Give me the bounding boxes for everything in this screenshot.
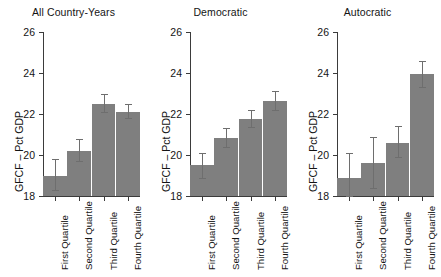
error-bar-cap-lower	[419, 87, 426, 88]
x-axis-tick-label: First Quartile	[59, 215, 70, 270]
error-bar-cap-lower	[125, 118, 132, 119]
error-bar-cap-lower	[248, 127, 255, 128]
error-bar-cap-upper	[223, 128, 230, 129]
panel-title: All Country-Years	[0, 6, 147, 18]
x-axis-tick-label: Second Quartile	[83, 201, 94, 270]
error-bar-cap-lower	[223, 147, 230, 148]
y-axis-tick	[39, 32, 43, 33]
x-axis-tick-label: Fourth Quartile	[132, 206, 143, 270]
x-axis-tick-label: Second Quartile	[377, 201, 388, 270]
error-bar-cap-upper	[272, 91, 279, 92]
y-axis-tick-label: 24	[9, 67, 35, 79]
y-axis-tick-label: 26	[156, 26, 182, 38]
x-axis-line	[190, 196, 287, 197]
x-axis-tick-label: Third Quartile	[108, 212, 119, 270]
y-axis-tick	[333, 73, 337, 74]
error-bar-cap-upper	[395, 126, 402, 127]
error-bar	[422, 61, 423, 88]
x-axis-tick-label: Fourth Quartile	[426, 206, 437, 270]
error-bar-cap-upper	[248, 110, 255, 111]
error-bar	[349, 153, 350, 196]
y-axis-tick-label: 22	[156, 108, 182, 120]
y-axis-tick	[39, 114, 43, 115]
x-axis-tick	[275, 197, 276, 201]
bar	[410, 74, 434, 196]
panel-title: Democratic	[147, 6, 294, 18]
error-bar	[226, 128, 227, 146]
x-axis-tick	[202, 197, 203, 201]
x-axis-tick	[226, 197, 227, 201]
panel-title: Autocratic	[294, 6, 441, 18]
bar	[116, 112, 140, 196]
x-axis-tick	[79, 197, 80, 201]
error-bar-cap-lower	[370, 188, 377, 189]
bar	[263, 101, 287, 196]
error-bar	[55, 159, 56, 190]
y-axis-tick-label: 24	[303, 67, 329, 79]
error-bar	[373, 137, 374, 188]
x-axis-tick	[251, 197, 252, 201]
error-bar	[128, 104, 129, 118]
x-axis-tick-label: Second Quartile	[230, 201, 241, 270]
bar	[92, 104, 116, 196]
error-bar-cap-upper	[346, 153, 353, 154]
chart-panel-2: DemocraticGFCF – Pct GDP1820222426First …	[147, 0, 294, 277]
error-bar-cap-upper	[419, 61, 426, 62]
y-axis-tick-label: 20	[156, 149, 182, 161]
y-axis-tick	[333, 114, 337, 115]
y-axis-tick-label: 20	[303, 149, 329, 161]
bar	[239, 119, 263, 196]
y-axis-line	[43, 32, 44, 196]
x-axis-tick-label: Third Quartile	[402, 212, 413, 270]
y-axis-tick-label: 26	[303, 26, 329, 38]
error-bar	[275, 91, 276, 109]
y-axis-tick-label: 24	[156, 67, 182, 79]
error-bar	[202, 153, 203, 178]
x-axis-tick	[373, 197, 374, 201]
error-bar-cap-lower	[52, 190, 59, 191]
error-bar-cap-upper	[199, 153, 206, 154]
y-axis-tick	[39, 155, 43, 156]
error-bar	[104, 94, 105, 112]
y-axis-tick	[333, 32, 337, 33]
x-axis-tick	[398, 197, 399, 201]
x-axis-line	[43, 196, 140, 197]
y-axis-tick	[186, 32, 190, 33]
y-axis-tick-label: 18	[303, 190, 329, 202]
y-axis-tick-label: 22	[303, 108, 329, 120]
y-axis-tick-label: 26	[9, 26, 35, 38]
y-axis-tick-label: 20	[9, 149, 35, 161]
y-axis-tick	[186, 114, 190, 115]
error-bar-cap-lower	[101, 112, 108, 113]
y-axis-tick	[186, 155, 190, 156]
error-bar	[398, 126, 399, 157]
y-axis-tick	[39, 73, 43, 74]
error-bar-cap-upper	[52, 159, 59, 160]
y-axis-tick-label: 18	[156, 190, 182, 202]
y-axis-line	[337, 32, 338, 196]
x-axis-tick-label: Fourth Quartile	[279, 206, 290, 270]
x-axis-tick-label: First Quartile	[353, 215, 364, 270]
error-bar-cap-upper	[101, 94, 108, 95]
y-axis-tick	[186, 73, 190, 74]
x-axis-tick	[422, 197, 423, 201]
error-bar	[251, 110, 252, 127]
error-bar-cap-upper	[76, 139, 83, 140]
error-bar-cap-lower	[76, 161, 83, 162]
chart-panel-3: AutocraticGFCF – Pct GDP1820222426First …	[294, 0, 441, 277]
error-bar-cap-lower	[395, 157, 402, 158]
error-bar-cap-upper	[370, 137, 377, 138]
figure-canvas: All Country-YearsGFCF – Pct GDP182022242…	[0, 0, 441, 277]
y-axis-tick-label: 22	[9, 108, 35, 120]
x-axis-tick-label: Third Quartile	[255, 212, 266, 270]
x-axis-tick	[55, 197, 56, 201]
error-bar	[79, 139, 80, 162]
x-axis-tick	[104, 197, 105, 201]
error-bar-cap-lower	[272, 110, 279, 111]
x-axis-tick	[349, 197, 350, 201]
y-axis-tick	[333, 155, 337, 156]
x-axis-tick-label: First Quartile	[206, 215, 217, 270]
chart-panel-1: All Country-YearsGFCF – Pct GDP182022242…	[0, 0, 147, 277]
error-bar-cap-upper	[125, 104, 132, 105]
y-axis-tick-label: 18	[9, 190, 35, 202]
